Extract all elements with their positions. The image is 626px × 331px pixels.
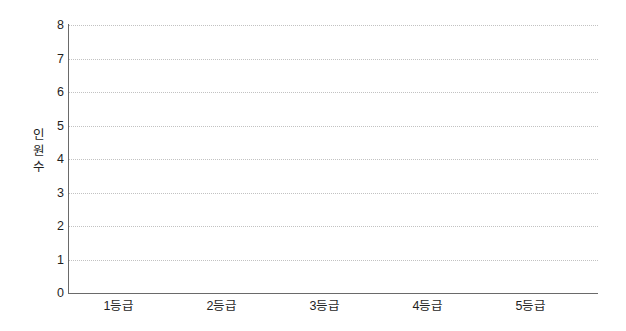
y-tick-label-0: 0 bbox=[42, 287, 64, 299]
gridline-y-5 bbox=[68, 126, 598, 127]
x-tick-label-grade-4: 4등급 bbox=[383, 299, 473, 314]
x-tick-label-grade-5: 5등급 bbox=[486, 299, 576, 314]
y-tick-label-3: 3 bbox=[42, 187, 64, 199]
x-tick-label-grade-3: 3등급 bbox=[280, 299, 370, 314]
x-axis-line bbox=[68, 293, 598, 294]
plot-area bbox=[68, 25, 598, 293]
y-tick-label-6: 6 bbox=[42, 86, 64, 98]
gridline-y-7 bbox=[68, 59, 598, 60]
gridline-y-8 bbox=[68, 25, 598, 26]
y-tick-label-1: 1 bbox=[42, 254, 64, 266]
bar-chart-figure: 인 원 수 8 7 6 5 4 3 2 1 0 1등급 2등급 3등급 4등급 … bbox=[0, 0, 626, 331]
gridline-y-1 bbox=[68, 260, 598, 261]
y-tick-label-7: 7 bbox=[42, 53, 64, 65]
gridline-y-4 bbox=[68, 159, 598, 160]
gridline-y-2 bbox=[68, 226, 598, 227]
y-tick-label-4: 4 bbox=[42, 153, 64, 165]
gridline-y-6 bbox=[68, 92, 598, 93]
y-tick-label-2: 2 bbox=[42, 220, 64, 232]
x-tick-label-grade-2: 2등급 bbox=[177, 299, 267, 314]
y-tick-label-8: 8 bbox=[42, 19, 64, 31]
y-axis-title: 인 원 수 bbox=[28, 127, 50, 175]
y-tick-label-5: 5 bbox=[42, 120, 64, 132]
x-tick-label-grade-1: 1등급 bbox=[74, 299, 164, 314]
y-axis-line bbox=[68, 24, 69, 294]
gridline-y-3 bbox=[68, 193, 598, 194]
